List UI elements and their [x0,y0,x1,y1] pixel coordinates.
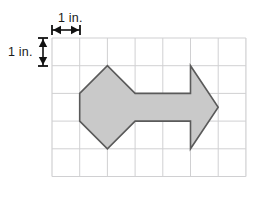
arrowhead-down-icon [39,57,47,65]
figure-canvas: 1 in. 1 in. [0,0,264,202]
grid-and-shape-svg [0,0,264,202]
composite-polygon-shape [80,66,219,149]
horizontal-dimension-arrow [52,25,80,35]
vertical-dimension-arrow [38,38,48,66]
arrowhead-right-icon [71,26,79,34]
arrowhead-up-icon [39,39,47,47]
arrowhead-left-icon [53,26,61,34]
